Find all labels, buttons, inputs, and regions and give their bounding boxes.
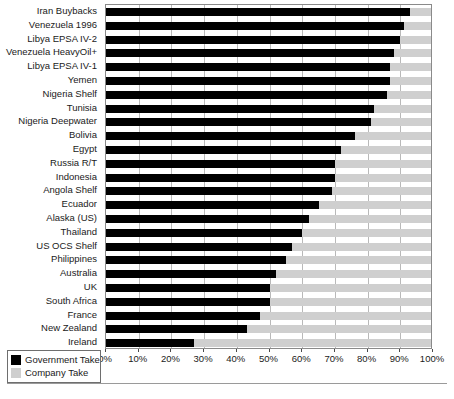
bar-segment-company-take [394,49,431,57]
bar-segment-government-take [106,146,341,154]
legend-item: Government Take [11,353,97,366]
legend-item: Company Take [11,366,97,379]
x-axis-tick-label: 10% [128,353,147,364]
y-axis-tick-label: Ireland [0,337,97,347]
bar-segment-government-take [106,160,335,168]
bar-row [106,215,431,223]
x-axis: 0%10%20%30%40%50%60%70%80%90%100% [105,349,432,369]
x-axis-tick-mark [105,349,106,352]
bottom-divider [7,383,447,384]
bar-segment-government-take [106,91,387,99]
bar-segment-company-take [319,201,431,209]
bar-segment-company-take [247,325,431,333]
y-axis-tick-label: Alaska (US) [0,213,97,223]
bar-segment-government-take [106,36,400,44]
bar-segment-company-take [194,339,431,347]
y-axis-tick-label: France [0,310,97,320]
bar-row [106,256,431,264]
x-axis-tick-mark [138,349,139,352]
y-axis-tick-label: Thailand [0,227,97,237]
bar-row [106,77,431,85]
y-axis-tick-label: New Zealand [0,323,97,333]
bar-segment-government-take [106,132,355,140]
bar-row [106,270,431,278]
bar-segment-government-take [106,63,390,71]
bar-row [106,132,431,140]
bar-segment-government-take [106,187,332,195]
bar-segment-company-take [355,132,431,140]
y-axis-tick-label: Philippines [0,254,97,264]
x-axis-tick-label: 90% [390,353,409,364]
bar-segment-company-take [270,284,432,292]
bar-segment-company-take [332,187,431,195]
bar-row [106,325,431,333]
bar-row [106,8,431,16]
bar-segment-company-take [404,22,431,30]
bar-segment-government-take [106,118,371,126]
bar-segment-government-take [106,49,394,57]
y-axis-tick-label: Egypt [0,144,97,154]
bar-segment-company-take [390,77,431,85]
x-axis-tick-label: 70% [324,353,343,364]
bar-segment-company-take [292,243,431,251]
bar-row [106,174,431,182]
bar-row [106,160,431,168]
bar-row [106,201,431,209]
bar-segment-company-take [260,312,431,320]
plot-area [105,4,432,349]
x-axis-tick-mark [203,349,204,352]
y-axis-tick-label: Bolivia [0,130,97,140]
bar-row [106,312,431,320]
bar-segment-company-take [400,36,431,44]
bar-row [106,339,431,347]
bar-segment-company-take [335,174,431,182]
bar-segment-company-take [286,256,431,264]
bar-segment-company-take [276,270,431,278]
x-axis-tick-label: 100% [420,353,444,364]
bar-segment-government-take [106,325,247,333]
bar-row [106,22,431,30]
bar-row [106,105,431,113]
legend-swatch-company-take [11,368,21,378]
y-axis-tick-label: Ecuador [0,199,97,209]
x-axis-tick-mark [269,349,270,352]
bar-segment-government-take [106,298,270,306]
x-axis-tick-label: 30% [194,353,213,364]
bar-segment-government-take [106,284,270,292]
bar-segment-company-take [371,118,431,126]
bar-segment-company-take [387,91,431,99]
bar-segment-government-take [106,215,309,223]
y-axis-tick-label: South Africa [0,296,97,306]
y-axis-tick-label: Libya EPSA IV-2 [0,34,97,44]
bar-segment-government-take [106,77,390,85]
x-axis-tick-label: 50% [259,353,278,364]
y-axis-tick-label: UK [0,282,97,292]
bar-segment-company-take [302,229,431,237]
x-axis-tick-label: 40% [226,353,245,364]
bar-row [106,229,431,237]
y-axis-tick-label: Russia R/T [0,158,97,168]
bar-segment-company-take [374,105,431,113]
bar-segment-government-take [106,270,276,278]
bar-segment-company-take [309,215,431,223]
bar-segment-government-take [106,256,286,264]
y-axis-tick-label: Venezuela 1996 [0,20,97,30]
bar-segment-government-take [106,312,260,320]
y-axis-category-labels: Iran BuybacksVenezuela 1996Libya EPSA IV… [0,4,101,349]
legend-label: Company Take [25,367,88,378]
bar-row [106,91,431,99]
y-axis-tick-label: Australia [0,268,97,278]
chart-container: Iran BuybacksVenezuela 1996Libya EPSA IV… [0,0,454,399]
y-axis-tick-label: Tunisia [0,103,97,113]
bar-segment-company-take [390,63,431,71]
x-axis-tick-mark [334,349,335,352]
bar-row [106,118,431,126]
x-axis-tick-mark [301,349,302,352]
x-axis-tick-mark [236,349,237,352]
y-axis-tick-label: Iran Buybacks [0,6,97,16]
x-axis-tick-mark [432,349,433,352]
bar-row [106,49,431,57]
x-axis-tick-mark [367,349,368,352]
bar-row [106,146,431,154]
bar-row [106,298,431,306]
